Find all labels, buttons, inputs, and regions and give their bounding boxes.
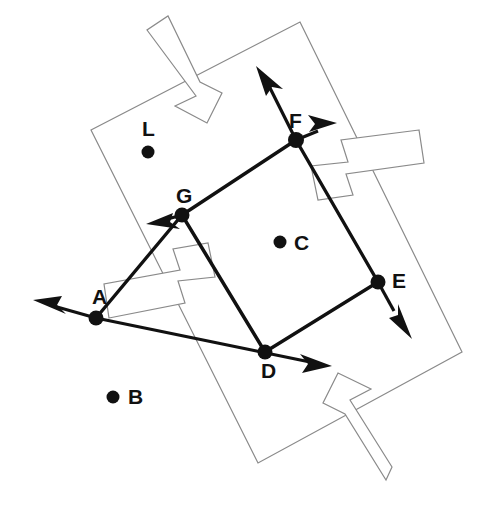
ray-F-right-arrowhead bbox=[308, 115, 337, 132]
point-label-A: A bbox=[92, 285, 107, 308]
point-dot-L[interactable] bbox=[142, 146, 155, 159]
point-dot-B[interactable] bbox=[107, 391, 120, 404]
edge-G-F bbox=[182, 140, 296, 215]
point-label-B: B bbox=[128, 385, 143, 408]
point-label-L: L bbox=[142, 117, 155, 140]
edge-E-D bbox=[265, 282, 378, 352]
edge-D-G bbox=[182, 215, 265, 352]
point-dot-D[interactable] bbox=[258, 345, 273, 360]
point-dot-C[interactable] bbox=[274, 236, 287, 249]
ray-D-right-arrowhead bbox=[300, 354, 332, 373]
ray-A-left-arrowhead bbox=[33, 296, 66, 314]
point-label-E: E bbox=[392, 269, 406, 292]
point-label-F: F bbox=[289, 109, 302, 132]
geometry-canvas: A B C D E F G L bbox=[0, 0, 485, 507]
ray-A-D-line bbox=[96, 318, 310, 362]
hollow-arrow-left-icon bbox=[104, 243, 215, 318]
point-dot-A[interactable] bbox=[89, 311, 104, 326]
ray-F-upleft-arrowhead bbox=[256, 66, 283, 96]
ray-group bbox=[33, 66, 412, 373]
hollow-arrow-right-icon bbox=[311, 130, 424, 200]
point-label-G: G bbox=[176, 184, 192, 207]
point-dot-E[interactable] bbox=[371, 275, 386, 290]
point-label-C: C bbox=[294, 231, 309, 254]
hollow-arrow-top-icon bbox=[147, 16, 222, 123]
point-dot-G[interactable] bbox=[175, 208, 190, 223]
hollow-arrow-bottom-icon bbox=[323, 373, 392, 480]
geometry-diagram: A B C D E F G L bbox=[0, 0, 485, 507]
point-label-D: D bbox=[261, 359, 276, 382]
point-dot-F[interactable] bbox=[288, 132, 304, 148]
